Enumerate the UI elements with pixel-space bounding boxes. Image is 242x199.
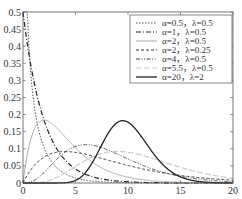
- gamma-pdf-chart: 00.050.10.150.20.250.30.350.40.450.5 051…: [0, 0, 242, 199]
- legend: α=0.5，λ=0.5α=1，λ=0.5α=2，λ=0.5α=2，λ=0.25α…: [130, 15, 232, 83]
- y-tick-label: 0.45: [4, 24, 22, 35]
- y-tick-label: 0.35: [4, 58, 22, 69]
- y-tick-label: 0.25: [4, 92, 22, 103]
- x-tick-label: 10: [123, 185, 133, 196]
- y-tick-label: 0.3: [9, 75, 22, 86]
- y-tick-label: 0.5: [9, 7, 22, 18]
- x-tick-label: 5: [73, 185, 78, 196]
- x-tick-label: 20: [228, 185, 238, 196]
- y-tick-label: 0.4: [9, 41, 22, 52]
- y-tick-label: 0.2: [9, 109, 22, 120]
- legend-label: α=20，λ=2: [162, 72, 204, 82]
- y-tick-label: 0.1: [9, 143, 22, 154]
- x-tick-label: 0: [21, 185, 26, 196]
- y-tick-label: 0.15: [4, 126, 22, 137]
- y-tick-label: 0.05: [4, 160, 22, 171]
- x-tick-label: 15: [176, 185, 186, 196]
